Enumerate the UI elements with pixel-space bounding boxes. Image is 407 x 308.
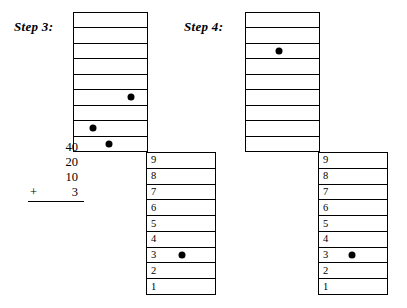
step3-upper-dot (89, 125, 96, 132)
step4-lower-row-label: 7 (323, 187, 328, 198)
step3-lower-row-label: 7 (151, 187, 156, 198)
step4-lower-row-label: 1 (323, 281, 328, 292)
step3-lower-row: 1 (147, 279, 215, 294)
step3-upper-row (74, 13, 147, 28)
step3-lower-dot (179, 252, 186, 259)
step4-lower-row-label: 2 (323, 266, 328, 277)
step4-lower-row: 9 (319, 153, 387, 169)
step4-lower-row: 1 (319, 279, 387, 294)
addend-1: 40 (28, 140, 84, 155)
step3-upper-row (74, 121, 147, 136)
step4-lower-row-label: 8 (323, 171, 328, 182)
step4-lower-row: 4 (319, 232, 387, 248)
step3-lower-row: 2 (147, 263, 215, 279)
step4-lower-row: 6 (319, 200, 387, 216)
step3-upper-dot (127, 94, 134, 101)
step4-lower-row: 3 (319, 248, 387, 264)
step3-lower-row-label: 3 (151, 250, 156, 261)
step3-lower-row-label: 9 (151, 155, 156, 166)
step3-upper-row (74, 75, 147, 90)
step3-upper-row (74, 137, 147, 151)
addition-column: 40 20 10 + 3 (28, 140, 84, 202)
step4-lower-row-label: 6 (323, 202, 328, 213)
step4-lower-row: 7 (319, 185, 387, 201)
step4-upper-row (246, 59, 319, 74)
step3-upper-row (74, 106, 147, 121)
diagram-canvas: Step 3: 40 20 10 + 3 987654321 Step 4: 9… (0, 0, 407, 308)
step3-lower-row-label: 2 (151, 266, 156, 277)
step3-upper-row (74, 44, 147, 59)
step3-lower-row: 6 (147, 200, 215, 216)
step4-upper-row (246, 13, 319, 28)
step-3-label: Step 3: (14, 19, 53, 35)
step4-upper-row (246, 44, 319, 59)
step3-lower-row: 3 (147, 248, 215, 264)
addend-4: 3 (72, 185, 78, 200)
step3-lower-row-label: 6 (151, 202, 156, 213)
step-3-upper-grid (73, 12, 148, 152)
step3-upper-row (74, 28, 147, 43)
step3-lower-row: 4 (147, 232, 215, 248)
step4-lower-row-label: 3 (323, 250, 328, 261)
plus-operator: + (28, 185, 37, 200)
step3-lower-row: 7 (147, 185, 215, 201)
step-4-label: Step 4: (184, 19, 223, 35)
step4-upper-row (246, 28, 319, 43)
addend-2: 20 (28, 155, 84, 170)
step4-lower-dot (348, 252, 355, 259)
addend-3: 10 (28, 170, 84, 185)
step4-upper-dot (275, 48, 282, 55)
step3-upper-row (74, 59, 147, 74)
step4-lower-row-label: 5 (323, 218, 328, 229)
step-4-upper-grid (245, 12, 320, 152)
step-3-lower-grid: 987654321 (146, 152, 216, 295)
step4-lower-row-label: 4 (323, 234, 328, 245)
step4-upper-row (246, 137, 319, 151)
step3-lower-row-label: 1 (151, 281, 156, 292)
step4-upper-row (246, 106, 319, 121)
step4-lower-row: 2 (319, 263, 387, 279)
step-4-lower-grid: 987654321 (318, 152, 388, 295)
step4-lower-row-label: 9 (323, 155, 328, 166)
step3-lower-row-label: 4 (151, 234, 156, 245)
step3-lower-row: 8 (147, 169, 215, 185)
step3-lower-row: 5 (147, 216, 215, 232)
step4-upper-row (246, 75, 319, 90)
step4-lower-row: 5 (319, 216, 387, 232)
step4-upper-row (246, 90, 319, 105)
step4-upper-row (246, 121, 319, 136)
step3-upper-dot (106, 140, 113, 147)
step3-lower-row-label: 8 (151, 171, 156, 182)
addend-4-row: + 3 (28, 185, 84, 202)
step4-lower-row: 8 (319, 169, 387, 185)
step3-lower-row-label: 5 (151, 218, 156, 229)
step3-upper-row (74, 90, 147, 105)
step3-lower-row: 9 (147, 153, 215, 169)
